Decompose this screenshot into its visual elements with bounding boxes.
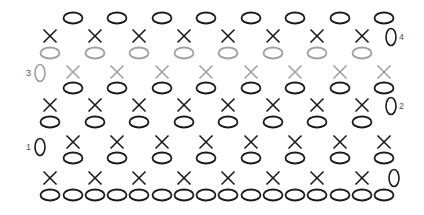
- single-crochet-icon: [222, 172, 235, 185]
- chain-stitch-icon: [353, 117, 372, 128]
- chain-stitch-icon: [175, 48, 194, 59]
- chain-stitch-icon: [242, 83, 261, 94]
- chain-stitch-icon: [64, 153, 83, 164]
- chain-stitch-icon: [86, 48, 105, 59]
- turning-chain-icon: [386, 98, 396, 115]
- foundation-chain-icon: [242, 190, 261, 201]
- crochet-chart: 4321: [0, 0, 424, 215]
- chain-stitch-icon: [197, 13, 216, 24]
- row-number-label: 2: [399, 101, 404, 111]
- single-crochet-icon: [267, 30, 280, 43]
- single-crochet-icon: [311, 30, 324, 43]
- single-crochet-icon: [356, 172, 369, 185]
- foundation-chain-icon: [331, 190, 350, 201]
- single-crochet-icon: [133, 172, 146, 185]
- chain-stitch-icon: [353, 48, 372, 59]
- chart-layer: 4321: [26, 13, 404, 201]
- turning-chain-icon: [35, 139, 45, 156]
- turning-chain-icon: [386, 29, 396, 46]
- single-crochet-icon: [334, 66, 347, 79]
- single-crochet-icon: [378, 136, 391, 149]
- chain-stitch-icon: [308, 117, 327, 128]
- foundation-chain-icon: [197, 190, 216, 201]
- chain-stitch-icon: [242, 153, 261, 164]
- chain-stitch-icon: [108, 153, 127, 164]
- turning-chain-icon: [389, 170, 399, 187]
- chain-stitch-icon: [375, 13, 394, 24]
- single-crochet-icon: [133, 30, 146, 43]
- foundation-chain-icon: [219, 190, 238, 201]
- single-crochet-icon: [89, 172, 102, 185]
- single-crochet-icon: [111, 66, 124, 79]
- foundation-chain-icon: [41, 190, 60, 201]
- chain-stitch-icon: [153, 13, 172, 24]
- row-number-label: 1: [26, 142, 31, 152]
- single-crochet-icon: [200, 136, 213, 149]
- foundation-chain-icon: [130, 190, 149, 201]
- single-crochet-icon: [289, 136, 302, 149]
- single-crochet-icon: [111, 136, 124, 149]
- chain-stitch-icon: [197, 83, 216, 94]
- single-crochet-icon: [378, 66, 391, 79]
- single-crochet-icon: [289, 66, 302, 79]
- row-number-label: 4: [399, 32, 404, 42]
- chain-stitch-icon: [153, 83, 172, 94]
- chain-stitch-icon: [219, 117, 238, 128]
- single-crochet-icon: [200, 66, 213, 79]
- chain-stitch-icon: [331, 13, 350, 24]
- chain-stitch-icon: [264, 117, 283, 128]
- foundation-chain-icon: [108, 190, 127, 201]
- chain-stitch-icon: [86, 117, 105, 128]
- single-crochet-icon: [178, 99, 191, 112]
- chain-stitch-icon: [308, 48, 327, 59]
- chain-stitch-icon: [331, 83, 350, 94]
- chain-stitch-icon: [175, 117, 194, 128]
- single-crochet-icon: [311, 172, 324, 185]
- chain-stitch-icon: [375, 83, 394, 94]
- single-crochet-icon: [245, 136, 258, 149]
- chain-stitch-icon: [286, 153, 305, 164]
- foundation-chain-icon: [286, 190, 305, 201]
- row-number-label: 3: [26, 68, 31, 78]
- turning-chain-icon: [35, 65, 45, 82]
- foundation-chain-icon: [64, 190, 83, 201]
- single-crochet-icon: [356, 30, 369, 43]
- single-crochet-icon: [267, 172, 280, 185]
- single-crochet-icon: [311, 99, 324, 112]
- foundation-chain-icon: [308, 190, 327, 201]
- foundation-chain-icon: [353, 190, 372, 201]
- chain-stitch-icon: [130, 117, 149, 128]
- chain-stitch-icon: [64, 83, 83, 94]
- single-crochet-icon: [89, 30, 102, 43]
- chain-stitch-icon: [286, 83, 305, 94]
- chain-stitch-icon: [130, 48, 149, 59]
- foundation-chain-icon: [86, 190, 105, 201]
- foundation-chain-icon: [175, 190, 194, 201]
- single-crochet-icon: [222, 99, 235, 112]
- single-crochet-icon: [44, 172, 57, 185]
- single-crochet-icon: [44, 30, 57, 43]
- chain-stitch-icon: [41, 48, 60, 59]
- single-crochet-icon: [222, 30, 235, 43]
- single-crochet-icon: [156, 136, 169, 149]
- single-crochet-icon: [89, 99, 102, 112]
- chain-stitch-icon: [264, 48, 283, 59]
- single-crochet-icon: [334, 136, 347, 149]
- single-crochet-icon: [178, 172, 191, 185]
- chain-stitch-icon: [41, 117, 60, 128]
- chain-stitch-icon: [197, 153, 216, 164]
- chain-stitch-icon: [219, 48, 238, 59]
- chain-stitch-icon: [286, 13, 305, 24]
- chain-stitch-icon: [64, 13, 83, 24]
- single-crochet-icon: [67, 66, 80, 79]
- chain-stitch-icon: [108, 13, 127, 24]
- single-crochet-icon: [133, 99, 146, 112]
- chain-stitch-icon: [108, 83, 127, 94]
- single-crochet-icon: [156, 66, 169, 79]
- chain-stitch-icon: [375, 153, 394, 164]
- chain-stitch-icon: [242, 13, 261, 24]
- foundation-chain-icon: [375, 190, 394, 201]
- foundation-chain-icon: [264, 190, 283, 201]
- single-crochet-icon: [267, 99, 280, 112]
- single-crochet-icon: [67, 136, 80, 149]
